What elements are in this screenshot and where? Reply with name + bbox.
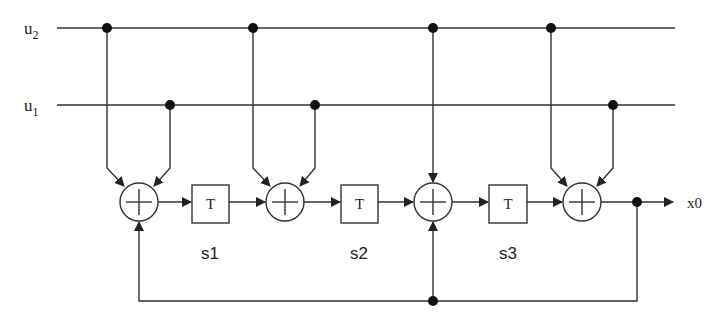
adder-3 — [414, 183, 452, 221]
delay-label-2: T — [355, 196, 364, 212]
state-label-s3: s3 — [499, 244, 517, 263]
delay-label-3: T — [503, 196, 512, 212]
tap-u2-adder1 — [107, 28, 124, 186]
state-label-s1: s1 — [201, 244, 219, 263]
adder-4 — [563, 183, 601, 221]
junction-dots — [102, 23, 642, 306]
tap-u2-adder2 — [253, 28, 270, 186]
adder-2 — [266, 183, 304, 221]
input-label-u2: u2 — [24, 19, 39, 42]
delay-label-1: T — [206, 196, 215, 212]
tap-u2-adder4 — [551, 28, 567, 186]
tap-u1-adder2 — [300, 105, 315, 186]
state-label-s2: s2 — [350, 244, 368, 263]
tap-u1-adder1 — [154, 105, 170, 186]
tap-u1-adder4 — [597, 105, 613, 186]
output-label: x0 — [687, 195, 702, 211]
input-label-u1: u1 — [24, 96, 39, 119]
encoder-diagram: u2 u1 T T T s1 s2 s3 x0 — [0, 0, 726, 326]
adder-1 — [120, 183, 158, 221]
